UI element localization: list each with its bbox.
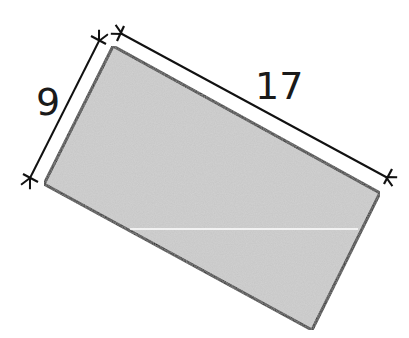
width-label: 9 xyxy=(36,80,60,124)
shaded-rectangle xyxy=(44,46,380,330)
length-label: 17 xyxy=(255,64,303,108)
rectangle-diagram: 9 17 xyxy=(0,0,409,338)
